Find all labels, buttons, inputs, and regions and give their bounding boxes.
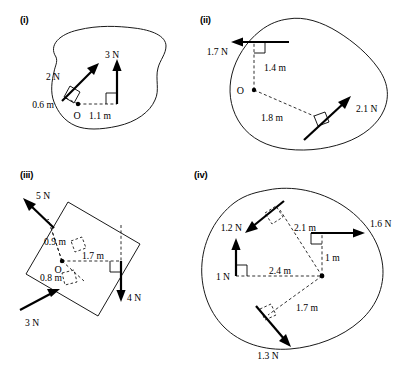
figure-i-right-angle-3n <box>106 93 117 104</box>
figure-i-force-3n-arrow <box>112 59 121 104</box>
figure-iv-force-1n-arrow <box>231 238 240 276</box>
figure-iv-svg: 1.2 N 2.1 m 1.6 N 1 m 1 N 2.4 m 1.7 m 1.… <box>180 163 402 370</box>
figure-iii-origin-label: O <box>54 264 61 275</box>
figure-iv-distance-1m-label: 1 m <box>325 252 340 263</box>
figure-ii-force-1p7n-label: 1.7 N <box>207 46 228 57</box>
figure-i-distance-0p6m-label: 0.6 m <box>32 99 54 110</box>
figure-iv-force-1p2n-arrow <box>245 201 284 233</box>
figure-iv-label: (iv) <box>194 169 207 180</box>
figure-i-distance-1p1m-label: 1.1 m <box>89 110 111 121</box>
figure-iii-origin-dot <box>60 259 64 263</box>
figure-iii-svg: 5 N 0.9 m 1.7 m 0.8 m 4 N 3 N O <box>0 163 200 370</box>
figure-iii-panel: (iii) <box>0 163 200 370</box>
figure-ii-svg: 1.7 N 1.4 m 2.1 N 1.8 m O <box>192 0 402 170</box>
figure-iv-distance-2p4m-label: 2.4 m <box>269 265 291 276</box>
figure-iv-force-1p6n-arrow <box>311 228 365 237</box>
figure-i-force-3n-label: 3 N <box>105 49 119 60</box>
figure-iii-right-angle-3n <box>62 270 77 285</box>
figure-iii-distance-1p7m-label: 1.7 m <box>82 250 104 261</box>
figure-i-force-2n-arrow <box>62 63 99 101</box>
figure-iv-right-angle-1n <box>236 265 247 276</box>
figure-ii-right-angle-1p7n <box>254 42 265 53</box>
figure-iv-force-1n-label: 1 N <box>216 271 230 282</box>
figure-ii-force-2p1n-arrow <box>304 96 351 140</box>
figure-iii-force-4n-label: 4 N <box>127 292 141 303</box>
figure-i-origin-dot <box>76 102 80 106</box>
figure-iv-origin-dot <box>320 274 325 279</box>
figure-iv-force-1p2n-label: 1.2 N <box>221 222 242 233</box>
figure-iii-distance-0p9m-label: 0.9 m <box>44 236 66 247</box>
figure-iv-panel: (iv) <box>180 163 402 370</box>
figure-iv-force-1p3n-label: 1.3 N <box>257 350 278 361</box>
figure-iii-right-angle-4n <box>110 261 121 272</box>
figure-ii-origin-label: O <box>237 85 244 96</box>
figure-ii-panel: (ii) 1.7 N <box>192 0 402 170</box>
figure-iii-force-3n-label: 3 N <box>25 317 39 328</box>
figure-iii-force-3n-arrow <box>20 289 60 310</box>
figure-ii-distance-1p8m-label: 1.8 m <box>261 112 283 123</box>
figure-ii-force-1p7n-arrow <box>231 37 289 46</box>
figure-i-svg: 2 N 3 N 0.6 m 1.1 m O <box>0 0 200 170</box>
figure-i-label: (i) <box>20 14 28 25</box>
figure-iv-body-outline <box>202 188 383 349</box>
figure-ii-distance-1p4m-label: 1.4 m <box>264 62 286 73</box>
figure-ii-origin-dot <box>252 88 256 92</box>
figure-i-origin-label: O <box>73 110 80 121</box>
figure-iii-force-5n-arrow <box>23 198 54 228</box>
figure-i-panel: (i) 2 N 3 <box>0 0 200 170</box>
figure-ii-label: (ii) <box>200 14 211 25</box>
figure-iv-distance-1p7m-label: 1.7 m <box>296 302 318 313</box>
figure-i-right-angle-2n <box>64 86 80 103</box>
figure-iv-force-1p6n-label: 1.6 N <box>370 218 391 229</box>
figure-ii-force-2p1n-label: 2.1 N <box>356 103 377 114</box>
figure-iv-distance-2p1m-label: 2.1 m <box>294 222 316 233</box>
figure-iii-distance-line-0p8m <box>62 261 84 281</box>
figure-iii-force-5n-label: 5 N <box>36 190 50 201</box>
figure-iv-right-angle-1p6n <box>311 233 322 244</box>
figure-iv-force-1p3n-arrow <box>256 306 291 347</box>
figure-iii-label: (iii) <box>20 169 33 180</box>
figure-i-force-2n-label: 2 N <box>46 71 60 82</box>
physics-force-diagram-figure: (i) 2 N 3 <box>0 0 402 370</box>
